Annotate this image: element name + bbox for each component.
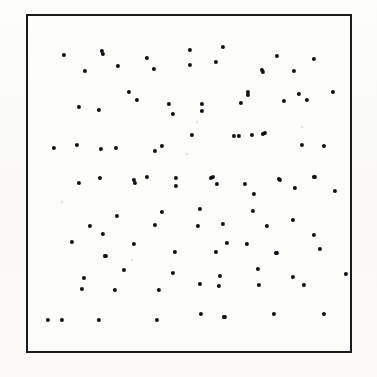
scan-speck [131, 259, 133, 261]
scatter-dot [171, 271, 175, 275]
scatter-dot [104, 254, 108, 258]
scatter-dot [198, 207, 202, 211]
scatter-dot [196, 224, 200, 228]
scatter-dot [88, 224, 92, 228]
scatter-dot [246, 90, 250, 94]
scatter-dot [167, 102, 171, 106]
scatter-dot [209, 176, 213, 180]
scatter-dot [217, 284, 221, 288]
scatter-dot [82, 276, 86, 280]
scatter-dot [101, 232, 105, 236]
scatter-dot [153, 149, 157, 153]
scatter-dot [133, 181, 137, 185]
scatter-dot [70, 240, 74, 244]
figure-root: Random dot pattern [0, 0, 377, 377]
scatter-dot [261, 132, 265, 136]
scatter-dot [265, 224, 269, 228]
scatter-dot [297, 92, 301, 96]
scatter-dot [171, 112, 175, 116]
scatter-dot [174, 176, 178, 180]
scatter-dot [243, 182, 247, 186]
scatter-dot [246, 93, 250, 97]
scatter-dot [292, 69, 296, 73]
scatter-dot [77, 181, 81, 185]
scatter-dot [214, 60, 218, 64]
scatter-dot [245, 242, 249, 246]
scatter-dot [200, 102, 204, 106]
scatter-dot [252, 192, 256, 196]
scatter-dot [99, 147, 103, 151]
scatter-dot [199, 312, 203, 316]
figure-title: Random dot pattern [0, 21, 1, 22]
scatter-dot [277, 177, 281, 181]
scan-speck [186, 153, 188, 155]
scatter-dot [275, 54, 279, 58]
figure-caption [0, 357, 377, 377]
scatter-dot [221, 45, 225, 49]
scatter-dot [237, 134, 241, 138]
scatter-dot [272, 312, 276, 316]
scatter-dot [75, 143, 79, 147]
scatter-dot [221, 222, 225, 226]
scatter-dot [313, 175, 317, 179]
scatter-dot [100, 49, 104, 53]
scatter-dot [215, 182, 219, 186]
scan-speck [301, 126, 303, 128]
scatter-dot [251, 209, 255, 213]
scatter-dot [312, 233, 316, 237]
scatter-dot [77, 105, 81, 109]
scatter-dot [293, 186, 297, 190]
scatter-dot [239, 101, 243, 105]
scatter-dot [62, 53, 66, 57]
scatter-dot [114, 146, 118, 150]
scatter-dot [101, 52, 105, 56]
scatter-dot [261, 70, 265, 74]
scatter-dot [214, 250, 218, 254]
plot-frame [26, 14, 352, 353]
scatter-dot [145, 175, 149, 179]
scatter-dot [223, 315, 227, 319]
scatter-dot [80, 287, 84, 291]
scatter-dot [250, 133, 254, 137]
scatter-dot [225, 241, 229, 245]
scatter-dot [278, 178, 282, 182]
scatter-dot [97, 108, 101, 112]
scatter-dot [160, 144, 164, 148]
scatter-dot [103, 254, 107, 258]
scan-speck [196, 121, 198, 123]
scatter-dot [291, 275, 295, 279]
scatter-dot [222, 315, 226, 319]
scatter-dot [322, 144, 326, 148]
scatter-dot [312, 175, 316, 179]
scatter-dot [256, 267, 260, 271]
scatter-dot [263, 131, 267, 135]
scatter-dot [98, 176, 102, 180]
scatter-dot [291, 218, 295, 222]
scatter-dot [331, 90, 335, 94]
scatter-dot [145, 56, 149, 60]
scatter-dot [132, 178, 136, 182]
scatter-dot [135, 98, 139, 102]
scatter-dot [322, 312, 326, 316]
scatter-dot [188, 48, 192, 52]
scatter-dot [198, 282, 202, 286]
scatter-dot [312, 57, 316, 61]
scatter-dot [257, 283, 261, 287]
scatter-dot [300, 143, 304, 147]
scatter-dot [52, 146, 56, 150]
scatter-dot [282, 99, 286, 103]
scatter-dot [153, 223, 157, 227]
scatter-dot-layer [28, 16, 350, 351]
scatter-dot [302, 283, 306, 287]
scatter-dot [115, 214, 119, 218]
scatter-dot [160, 210, 164, 214]
scatter-dot [232, 134, 236, 138]
scatter-dot [344, 272, 348, 276]
scatter-dot [97, 318, 101, 322]
scatter-dot [190, 133, 194, 137]
scatter-dot [113, 288, 117, 292]
scatter-dot [211, 175, 215, 179]
scatter-dot [116, 64, 120, 68]
scatter-dot [155, 318, 159, 322]
scatter-dot [60, 318, 64, 322]
